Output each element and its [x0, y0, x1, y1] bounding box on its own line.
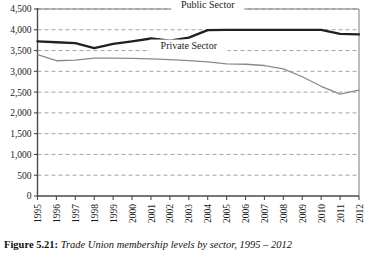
chart-canvas: 05001,0001,5002,0002,5003,0003,5004,0004…: [0, 0, 372, 232]
plot-frame: [38, 8, 360, 196]
x-axis-tick-label: 1995: [33, 204, 43, 223]
caption-text: Trade Union membership levels by sector,…: [61, 239, 292, 250]
x-axis-tick-label: 2004: [203, 204, 213, 223]
series-labels: Public SectorPrivate Sector: [150, 0, 244, 52]
x-axis-tick-label: 1996: [52, 204, 62, 223]
y-axis-tick-label: 2,000: [10, 108, 32, 118]
y-axis-tick-label: 1,500: [10, 129, 32, 139]
x-axis-tick-label: 1998: [90, 204, 100, 223]
y-axis-ticks: 05001,0001,5002,0002,5003,0003,5004,0004…: [10, 4, 37, 201]
x-axis-tick-label: 1997: [71, 204, 81, 223]
x-axis-tick-label: 2000: [128, 204, 138, 223]
figure-caption: Figure 5.21: Trade Union membership leve…: [4, 238, 370, 251]
caption-label: Figure 5.21:: [4, 239, 58, 250]
y-axis-tick-label: 500: [17, 171, 32, 181]
y-axis-tick-label: 0: [27, 191, 32, 201]
y-axis-tick-label: 3,000: [10, 67, 32, 77]
x-axis-tick-label: 1999: [109, 204, 119, 223]
figure-page: 05001,0001,5002,0002,5003,0003,5004,0004…: [0, 0, 372, 261]
x-axis-tick-label: 2009: [298, 204, 308, 223]
x-axis-tick-label: 2006: [241, 204, 251, 223]
x-axis-tick-label: 2001: [147, 204, 157, 223]
x-axis-tick-label: 2011: [336, 204, 346, 223]
y-axis-tick-label: 3,500: [10, 46, 32, 56]
line-chart: 05001,0001,5002,0002,5003,0003,5004,0004…: [0, 0, 372, 232]
x-axis-tick-label: 2010: [317, 204, 327, 223]
series-line-private-sector: [38, 55, 360, 94]
x-axis-tick-label: 2003: [184, 204, 194, 223]
y-axis-tick-label: 4,000: [10, 25, 32, 35]
x-axis-tick-label: 2005: [222, 204, 232, 223]
series-label-public-sector: Public Sector: [181, 0, 235, 10]
y-axis-tick-label: 2,500: [10, 88, 32, 98]
series-label-private-sector: Private Sector: [161, 40, 218, 51]
x-axis-tick-label: 2007: [260, 204, 270, 223]
y-axis-tick-label: 1,000: [10, 150, 32, 160]
x-axis-tick-label: 2008: [279, 204, 289, 223]
x-axis-tick-label: 2012: [355, 204, 365, 223]
x-axis-ticks: 1995199619971998199920002001200220032004…: [33, 196, 365, 223]
y-axis-tick-label: 4,500: [10, 4, 32, 14]
x-axis-tick-label: 2002: [165, 204, 175, 223]
